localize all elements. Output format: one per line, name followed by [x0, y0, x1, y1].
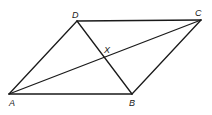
vertex-label-d: D — [72, 10, 79, 20]
side-cd — [77, 20, 201, 21]
side-da — [9, 21, 77, 94]
parallelogram-diagram: A B C D X — [0, 0, 212, 115]
intersection-label-x: X — [103, 45, 111, 55]
vertex-label-b: B — [129, 98, 135, 108]
side-bc — [132, 20, 201, 94]
diagonal-bd — [77, 21, 132, 94]
vertex-label-a: A — [8, 98, 15, 108]
diagonal-ac — [9, 20, 201, 94]
vertex-label-c: C — [195, 8, 202, 18]
